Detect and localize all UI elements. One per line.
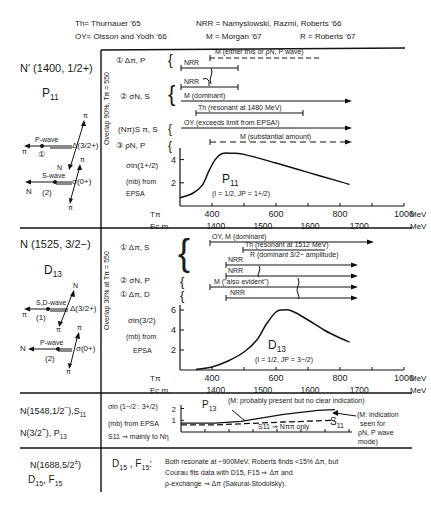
d15-f15-head: D15 , F15:	[112, 458, 152, 471]
state-d15-f15: D15, F15	[28, 474, 63, 487]
p13-pointer	[232, 410, 245, 421]
d15-text-1: Both resonate at ~900MeV. Roberts finds …	[165, 458, 338, 465]
y-tick-label: 1	[172, 416, 177, 425]
y-tick-label: 2	[172, 405, 177, 414]
chart-p13: 12	[0, 0, 431, 506]
indication-arrow	[335, 413, 356, 416]
indication-arrowhead	[332, 410, 338, 416]
state-n1688: N(1688,5/2±)	[30, 458, 81, 470]
d15-text-2: Courau fits data with D15, F15 ⇒ Δπ and	[165, 469, 293, 477]
d15-text-3: ρ-exchange ⇒ Δπ (Sakurai-Stodolsky).	[165, 480, 286, 488]
